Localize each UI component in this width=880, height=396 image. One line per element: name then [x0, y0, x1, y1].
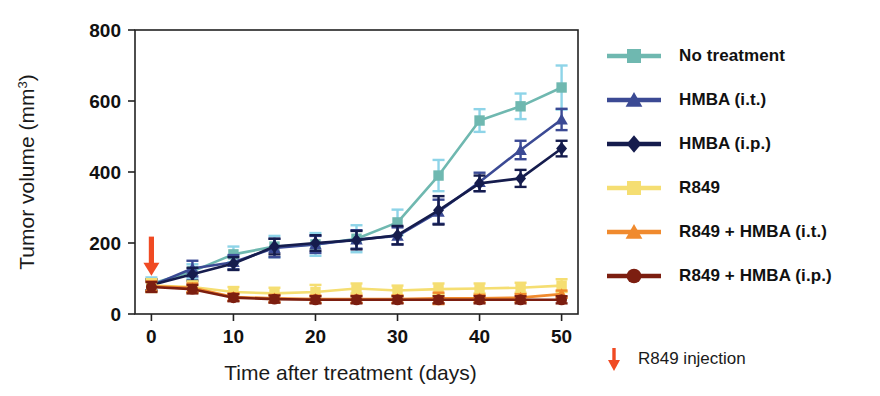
data-point-marker	[627, 49, 641, 63]
series-line	[151, 88, 561, 284]
data-point-marker	[515, 101, 525, 111]
data-point-marker	[187, 284, 198, 295]
data-point-marker	[433, 170, 443, 180]
data-point-marker	[556, 294, 567, 305]
svg-text:Tumor volume (mm3): Tumor volume (mm3)	[15, 74, 39, 269]
data-point-marker	[146, 282, 157, 293]
legend-item[interactable]: No treatment	[605, 34, 880, 78]
x-tick-label: 0	[146, 326, 157, 347]
data-series-group	[145, 66, 568, 306]
legend-marker-square	[605, 43, 663, 69]
data-point-marker	[627, 135, 642, 153]
legend-item-label: R849 + HMBA (i.t.)	[679, 222, 827, 242]
legend-marker-triangle	[605, 87, 663, 113]
data-point-marker	[474, 283, 484, 293]
legend-item[interactable]: R849	[605, 166, 880, 210]
data-point-marker	[433, 294, 444, 305]
data-point-marker	[555, 113, 567, 124]
legend-item[interactable]: R849 + HMBA (i.p.)	[605, 254, 880, 298]
x-tick-label: 40	[469, 326, 490, 347]
y-tick-label: 800	[89, 20, 121, 41]
data-point-marker	[474, 115, 484, 125]
x-tick-label: 20	[305, 326, 326, 347]
x-tick-label: 50	[551, 326, 572, 347]
legend-item-label: HMBA (i.t.)	[679, 90, 766, 110]
legend-marker-triangle	[605, 219, 663, 245]
arrow-head	[608, 360, 620, 371]
data-point-marker	[351, 283, 361, 293]
tumor-growth-chart: 020040060080001020304050 Time after trea…	[0, 0, 600, 396]
data-point-marker	[515, 283, 525, 293]
y-tick-label: 600	[89, 91, 121, 112]
chart-panel: 020040060080001020304050 Time after trea…	[0, 0, 600, 396]
r849-injection-arrow	[143, 237, 159, 276]
legend-item-label: HMBA (i.p.)	[679, 134, 771, 154]
legend-item[interactable]: HMBA (i.p.)	[605, 122, 880, 166]
arrow-head	[143, 263, 159, 276]
data-point-marker	[515, 294, 526, 305]
legend-item[interactable]: HMBA (i.t.)	[605, 78, 880, 122]
data-point-marker	[474, 294, 485, 305]
y-tick-label: 400	[89, 162, 121, 183]
series-line	[151, 119, 561, 285]
annotation-group	[143, 237, 159, 276]
data-point-marker	[392, 294, 403, 305]
x-tick-label: 10	[223, 326, 244, 347]
legend-item-label: R849 + HMBA (i.p.)	[679, 266, 832, 286]
data-point-marker	[627, 181, 641, 195]
data-point-marker	[515, 172, 526, 185]
legend-marker-square	[605, 175, 663, 201]
figure-root: 020040060080001020304050 Time after trea…	[0, 0, 880, 396]
y-axis-title: Tumor volume (mm3)	[15, 74, 39, 269]
data-point-marker	[556, 142, 567, 155]
r849-injection-note: R849 injection	[607, 344, 746, 374]
x-tick-label: 30	[387, 326, 408, 347]
data-point-marker	[310, 294, 321, 305]
error-bars	[145, 66, 567, 291]
legend-item-label: R849	[679, 178, 720, 198]
legend-item[interactable]: R849 + HMBA (i.t.)	[605, 210, 880, 254]
injection-note-label: R849 injection	[638, 349, 746, 369]
legend-item-label: No treatment	[679, 46, 785, 66]
legend-marker-circle	[605, 263, 663, 289]
down-arrow-icon	[607, 344, 621, 374]
data-point-marker	[269, 294, 280, 305]
data-point-marker	[228, 292, 239, 303]
y-tick-label: 0	[110, 304, 121, 325]
legend-marker-diamond	[605, 131, 663, 157]
data-point-marker	[351, 294, 362, 305]
series-no-treatment	[145, 66, 567, 291]
y-tick-label: 200	[89, 233, 121, 254]
data-point-marker	[627, 269, 642, 284]
x-axis-title: Time after treatment (days)	[224, 361, 476, 384]
legend: No treatmentHMBA (i.t.)HMBA (i.p.)R849R8…	[605, 34, 880, 298]
data-point-marker	[556, 82, 566, 92]
